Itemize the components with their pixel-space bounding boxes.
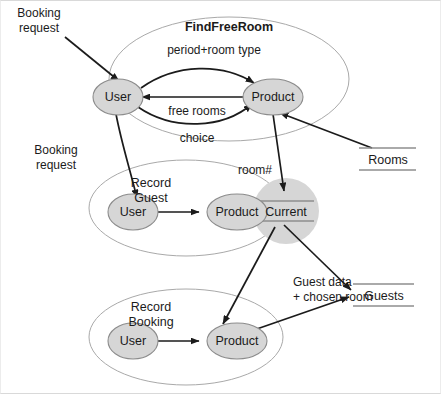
process-title-record-guest-line2: Guest — [134, 191, 168, 205]
data-flow-diagram: User Product User Product User Product F… — [1, 1, 441, 394]
flow-rooms-in — [280, 113, 372, 148]
flow-current-record-booking — [223, 227, 275, 324]
process-title-find-free-room: FindFreeRoom — [185, 20, 273, 34]
flow-label-period-room-type: period+room type — [167, 43, 261, 57]
guests-store-label: Guests — [364, 289, 404, 303]
diagram-canvas: User Product User Product User Product F… — [0, 0, 441, 394]
node-record-guest-user-label: User — [120, 205, 146, 219]
node-find-free-room-user-label: User — [105, 90, 131, 104]
process-title-record-booking-line1: Record — [131, 300, 171, 314]
process-boundary-find-free-room — [109, 17, 349, 141]
flow-period-room-type — [141, 69, 254, 88]
flow-label-choice: choice — [180, 131, 215, 145]
node-record-booking-user-label: User — [120, 334, 146, 348]
process-title-record-booking-line2: Booking — [128, 315, 173, 329]
current-store-label: Current — [265, 205, 307, 219]
flow-label-booking-request-top-line1: Booking — [17, 6, 60, 20]
node-find-free-room-product-label: Product — [251, 90, 295, 104]
flow-label-room-number: room# — [238, 163, 272, 177]
flow-booking-request-top — [65, 37, 119, 81]
node-record-guest-product-label: Product — [215, 205, 259, 219]
node-record-booking-product-label: Product — [215, 334, 259, 348]
flow-label-guest-data-line2: + chosen room — [293, 290, 373, 304]
flow-label-booking-request-top-line2: request — [19, 21, 60, 35]
process-title-record-guest-line1: Record — [131, 176, 171, 190]
flow-label-guest-data-line1: Guest data — [293, 275, 352, 289]
flow-label-booking-request-middle-line1: Booking — [34, 143, 77, 157]
rooms-store-label: Rooms — [368, 153, 408, 167]
flow-label-free-rooms: free rooms — [168, 104, 225, 118]
flow-label-booking-request-middle-line2: request — [36, 158, 77, 172]
